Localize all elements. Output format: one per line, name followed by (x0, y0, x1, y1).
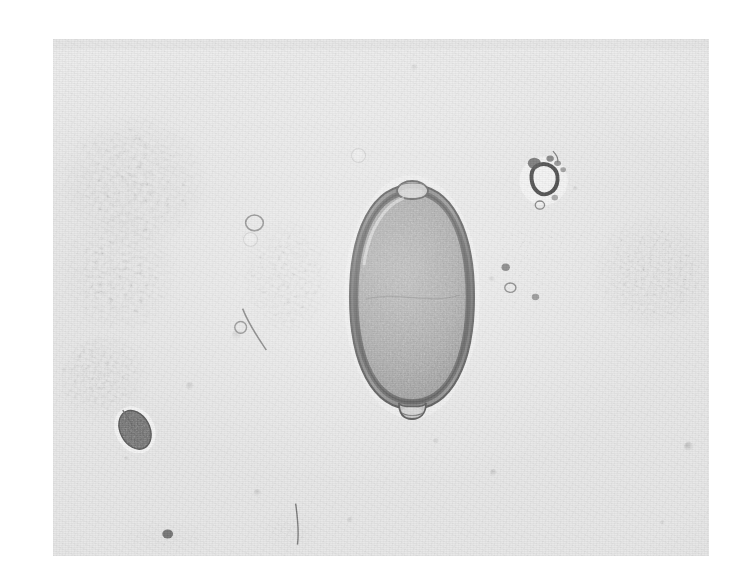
dark-ovoid-body (108, 400, 162, 458)
speck-e (433, 438, 439, 444)
debris-cluster-bottom-mid (256, 500, 326, 552)
speck-c (186, 382, 194, 390)
debris-cluster-bottom-left (110, 516, 220, 552)
speck-h (490, 469, 497, 476)
debris-cluster-right-large (586, 200, 709, 330)
speck-l (660, 520, 665, 525)
debris-cluster-mid-left (64, 206, 184, 338)
speck-i (684, 442, 693, 451)
polar-plug-top (397, 181, 428, 199)
egg-contents (342, 173, 482, 421)
speck-d (489, 276, 495, 282)
speck-n (232, 330, 242, 340)
speck-g (254, 489, 261, 496)
whipworm-egg (342, 173, 482, 421)
micrograph-page (0, 0, 741, 587)
debris-cluster-right-upper (512, 148, 592, 238)
speck-m (124, 456, 129, 461)
speck-a (351, 148, 366, 163)
speck-b (243, 232, 258, 247)
speck-k (411, 64, 418, 71)
speck-j (573, 186, 578, 191)
photographic-plate (53, 39, 709, 556)
speck-f (347, 517, 353, 523)
